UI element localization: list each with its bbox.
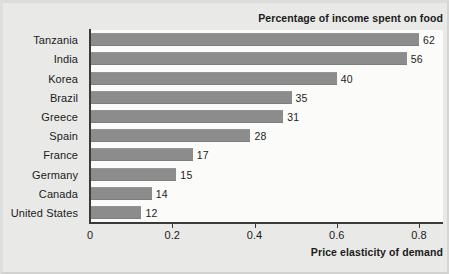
bar (90, 72, 337, 85)
bar-value-label: 17 (197, 149, 209, 161)
category-label: India (54, 53, 78, 65)
category-label: United States (11, 207, 78, 219)
bar (90, 33, 419, 46)
x-tick-mark (419, 222, 420, 228)
category-label: Greece (41, 111, 78, 123)
x-tick-label: 0.2 (152, 229, 192, 241)
x-tick-label: 0.6 (317, 229, 357, 241)
bar (90, 52, 407, 65)
bar-value-label: 40 (341, 73, 353, 85)
bar (90, 206, 141, 219)
category-label: Canada (39, 188, 78, 200)
bar-value-label: 56 (411, 53, 423, 65)
x-tick-label: 0.8 (399, 229, 439, 241)
chart-title: Percentage of income spent on food (258, 12, 443, 24)
x-axis-title: Price elasticity of demand (311, 246, 443, 258)
bar-value-label: 35 (296, 92, 308, 104)
category-label: Spain (49, 130, 78, 142)
bar-value-label: 62 (423, 34, 435, 46)
x-tick-mark (337, 222, 338, 228)
bar (90, 110, 283, 123)
bar-value-label: 15 (180, 169, 192, 181)
category-label: France (43, 149, 78, 161)
category-label: Germany (32, 169, 78, 181)
bar (90, 91, 292, 104)
x-tick-label: 0 (70, 229, 110, 241)
bar (90, 129, 250, 142)
category-label: Korea (48, 73, 78, 85)
bar-value-label: 14 (156, 188, 168, 200)
x-axis-line (89, 222, 443, 224)
x-tick-mark (255, 222, 256, 228)
bar (90, 148, 193, 161)
category-axis-labels: TanzaniaIndiaKoreaBrazilGreeceSpainFranc… (0, 30, 85, 222)
x-tick-mark (172, 222, 173, 228)
x-tick-label: 0.4 (235, 229, 275, 241)
bar (90, 187, 152, 200)
category-label: Brazil (50, 92, 78, 104)
y-axis-line (89, 29, 91, 224)
bar-value-label: 12 (145, 207, 157, 219)
bar-value-label: 28 (254, 130, 266, 142)
bar-value-label: 31 (287, 111, 299, 123)
chart-figure: Percentage of income spent on food Tanza… (0, 0, 449, 274)
bar (90, 168, 176, 181)
category-label: Tanzania (33, 34, 78, 46)
